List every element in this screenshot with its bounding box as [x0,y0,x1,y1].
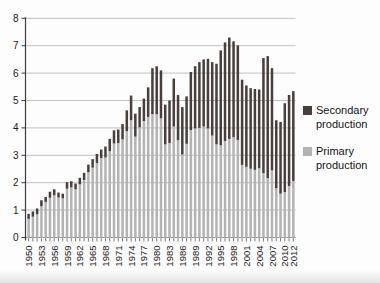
bar-primary-1951 [32,217,35,238]
bar-secondary-2000 [241,80,244,165]
bar-primary-1964 [87,172,90,237]
bar-primary-1994 [215,144,218,237]
bar-secondary-1950 [27,214,30,219]
x-tick-label-1986: 1986 [177,246,188,267]
bar-secondary-2001 [245,85,248,166]
bar-secondary-1959 [66,182,69,189]
x-tick-label-2004: 2004 [254,246,265,267]
bar-secondary-1978 [147,87,150,117]
bar-secondary-1961 [74,184,77,190]
bar-primary-1978 [147,117,150,238]
bar-secondary-2007 [271,68,274,170]
bar-secondary-1953 [40,200,43,206]
bar-secondary-1967 [100,150,103,158]
bar-primary-1955 [49,198,52,238]
y-tick-label-4: 4 [13,122,19,133]
bar-secondary-1992 [207,59,210,129]
chart-figure: 0123456781950195319561959196219651968197… [0,0,380,283]
bar-primary-2002 [249,169,252,238]
bar-secondary-1991 [202,59,205,126]
bar-primary-1966 [96,163,99,238]
bar-primary-1998 [232,137,235,237]
y-tick-label-5: 5 [13,95,19,106]
x-tick-label-1962: 1962 [74,246,85,267]
bar-primary-1995 [220,145,223,237]
x-tick-label-2001: 2001 [241,246,252,267]
bar-primary-1957 [57,197,60,237]
bar-secondary-1976 [138,107,141,127]
bar-secondary-2005 [262,58,265,173]
bar-primary-1958 [62,198,64,237]
bar-secondary-1985 [177,95,180,140]
x-tick-label-2012: 2012 [288,246,299,267]
bar-secondary-1986 [181,107,184,154]
y-tick-label-3: 3 [13,150,19,161]
bar-secondary-2006 [266,56,269,178]
bar-secondary-1955 [49,192,52,198]
x-tick-label-1983: 1983 [164,246,175,267]
bar-primary-2009 [279,194,282,238]
bar-primary-1999 [237,140,240,238]
bar-secondary-1970 [113,130,116,143]
bar-primary-2001 [245,167,248,238]
bar-secondary-1998 [232,41,235,137]
bar-secondary-1960 [70,181,73,187]
x-tick-label-1953: 1953 [36,246,47,267]
bar-primary-1960 [70,187,73,237]
bar-secondary-1977 [143,99,146,121]
legend-swatch-secondary-icon [303,106,312,115]
bar-secondary-1996 [224,42,227,141]
bar-primary-1963 [83,180,86,238]
bar-primary-2004 [258,168,261,237]
bar-primary-1973 [126,131,129,237]
legend-item-secondary: Secondary production [303,104,379,131]
x-tick-label-1998: 1998 [228,246,239,267]
x-tick-label-2007: 2007 [267,246,278,267]
x-tick-label-1959: 1959 [62,246,73,267]
bar-secondary-1981 [160,70,163,118]
legend-swatch-primary-icon [303,147,312,156]
bar-secondary-1982 [164,105,167,145]
x-tick-label-1965: 1965 [87,246,98,267]
bar-primary-1991 [202,127,205,238]
y-tick-label-6: 6 [13,68,19,79]
bar-secondary-1962 [79,178,82,185]
bar-secondary-1971 [117,130,120,143]
bar-primary-1977 [143,121,146,237]
bar-secondary-1974 [130,96,133,121]
bar-primary-1980 [155,114,158,237]
bar-primary-2003 [254,170,257,238]
bar-primary-2000 [241,165,244,238]
x-tick-label-1971: 1971 [113,246,124,267]
bar-secondary-1964 [87,165,90,173]
x-tick-label-1995: 1995 [215,246,226,267]
bar-primary-1989 [194,128,197,237]
bar-primary-1974 [130,120,133,237]
bar-primary-1985 [177,140,180,237]
bar-primary-1950 [27,219,30,238]
bar-secondary-1969 [108,139,111,151]
x-tick-label-1977: 1977 [138,246,149,267]
bar-secondary-1994 [215,64,218,145]
bar-primary-1984 [173,127,176,238]
bar-secondary-1965 [91,159,94,167]
bar-secondary-1968 [104,147,107,158]
x-tick-label-1980: 1980 [151,246,162,267]
bar-primary-1971 [117,143,120,238]
bar-primary-1956 [53,195,56,237]
bar-primary-1970 [113,144,116,238]
bar-secondary-2008 [275,120,278,188]
x-tick-label-1992: 1992 [203,246,214,267]
bar-secondary-1963 [83,173,86,180]
bar-primary-2011 [288,186,291,238]
y-tick-label-8: 8 [13,13,19,24]
bar-primary-1968 [104,157,107,237]
bar-primary-2010 [284,192,287,237]
bar-secondary-1975 [134,114,137,137]
bar-primary-2012 [292,181,295,237]
y-tick-label-1: 1 [13,205,19,216]
bar-primary-1976 [138,127,141,237]
legend-label-primary: Primary production [316,145,379,172]
bar-primary-1961 [74,189,77,237]
bar-secondary-1979 [151,68,154,114]
